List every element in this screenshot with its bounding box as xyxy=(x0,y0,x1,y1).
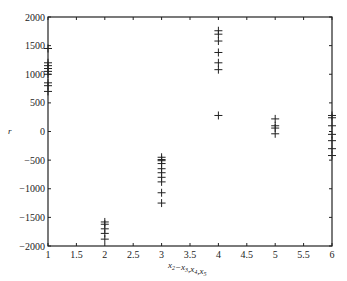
y-tick-label: 2000 xyxy=(25,12,45,23)
y-tick-label: −2000 xyxy=(19,241,45,252)
data-points xyxy=(44,27,336,243)
x-tick-label: 4.5 xyxy=(241,249,254,260)
data-point-plus-marker xyxy=(328,114,336,122)
x-tick-label: 4 xyxy=(216,249,221,260)
x-tick-label: 6 xyxy=(330,249,335,260)
x-tick-label: 3.5 xyxy=(184,249,197,260)
data-point-plus-marker xyxy=(328,152,336,160)
plot-area xyxy=(48,17,332,246)
data-point-plus-marker xyxy=(158,178,166,186)
axes-box xyxy=(48,17,332,246)
data-point-plus-marker xyxy=(214,30,222,38)
data-point-plus-marker xyxy=(214,111,222,119)
x-tick-label: 1.5 xyxy=(70,249,83,260)
x-tick-label: 5.5 xyxy=(297,249,310,260)
x-tick-label: 1 xyxy=(46,249,51,260)
y-tick-label: −500 xyxy=(24,155,45,166)
x-axis-label: x2−x3,x4,x5 xyxy=(167,260,207,277)
x-tick-label: 2.5 xyxy=(127,249,140,260)
data-point-plus-marker xyxy=(44,87,52,95)
data-point-plus-marker xyxy=(158,199,166,207)
data-point-plus-marker xyxy=(271,130,279,138)
y-axis-label: r xyxy=(8,126,12,136)
data-point-plus-marker xyxy=(271,115,279,123)
x-tick-label: 3 xyxy=(159,249,164,260)
y-tick-label: −1500 xyxy=(19,212,45,223)
data-point-plus-marker xyxy=(214,66,222,74)
data-point-plus-marker xyxy=(101,235,109,243)
data-point-plus-marker xyxy=(158,189,166,197)
data-point-plus-marker xyxy=(328,137,336,145)
x-tick-label: 2 xyxy=(102,249,107,260)
data-point-plus-marker xyxy=(214,59,222,67)
y-tick-label: 1000 xyxy=(25,69,45,80)
axis-ticks: 11.522.533.544.555.56−2000−1500−1000−500… xyxy=(19,12,334,261)
data-point-plus-marker xyxy=(214,37,222,45)
data-point-plus-marker xyxy=(214,48,222,56)
x-tick-label: 5 xyxy=(273,249,278,260)
y-tick-label: 1500 xyxy=(25,40,45,51)
data-point-plus-marker xyxy=(328,145,336,153)
y-tick-label: 500 xyxy=(30,97,45,108)
data-point-plus-marker xyxy=(328,122,336,130)
scatter-chart: 11.522.533.544.555.56−2000−1500−1000−500… xyxy=(0,0,347,281)
y-tick-label: 0 xyxy=(40,126,45,137)
y-tick-label: −1000 xyxy=(19,183,45,194)
